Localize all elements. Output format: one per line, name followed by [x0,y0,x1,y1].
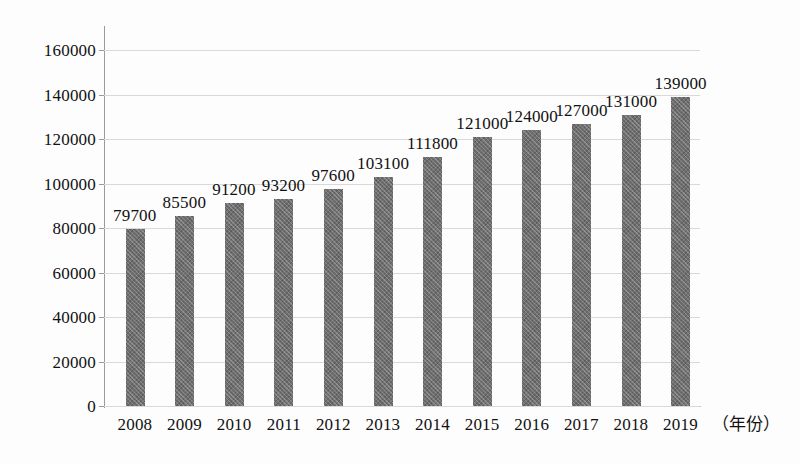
y-axis-tick-label: 40000 [53,309,97,326]
bar-data-label: 97600 [311,167,355,184]
x-axis-tick-label: 2018 [614,416,649,433]
x-axis-tick-label: 2015 [465,416,500,433]
bar-data-label: 91200 [212,181,256,198]
x-axis-tick-label: 2019 [663,416,698,433]
y-axis-tick-label: 120000 [44,131,96,148]
bar-data-label: 85500 [163,194,207,211]
plot-area [104,28,700,406]
bar [374,177,393,406]
y-axis-tick-label: 60000 [53,265,97,282]
bar [572,124,591,406]
y-axis-tick [99,95,104,96]
bar-data-label: 124000 [506,108,558,125]
bar [522,130,541,406]
bar-data-label: 93200 [262,177,306,194]
bar-data-label: 121000 [456,115,508,132]
gridline [104,406,700,407]
y-axis-tick-label: 20000 [53,354,97,371]
x-axis-tick-label: 2013 [366,416,401,433]
bar [274,199,293,406]
gridline [104,139,700,140]
bar [473,137,492,406]
x-axis-tick-label: 2008 [118,416,153,433]
gridline [104,184,700,185]
bar [175,216,194,406]
bar-data-label: 111800 [407,135,458,152]
bar-data-label: 131000 [605,93,657,110]
y-axis-tick [99,139,104,140]
x-axis-tick-label: 2017 [564,416,599,433]
y-axis-tick [99,273,104,274]
x-axis-tick-label: 2012 [316,416,351,433]
y-axis-tick [99,317,104,318]
bar-data-label: 103100 [357,155,409,172]
bar-data-label: 127000 [555,102,607,119]
bar-data-label: 139000 [655,75,707,92]
bar [423,157,442,406]
x-axis-tick-label: 2011 [267,416,301,433]
x-axis-tick-label: 2016 [514,416,549,433]
bar [126,229,145,406]
bar-data-label: 79700 [113,207,157,224]
y-axis-tick-label: 80000 [53,220,97,237]
bar [622,115,641,406]
y-axis-labels: 0200004000060000800001000001200001400001… [0,0,96,464]
y-axis-tick [99,184,104,185]
x-axis-tick-label: 2009 [167,416,202,433]
bar [324,189,343,406]
x-axis-tick-label: 2014 [415,416,450,433]
y-axis-tick [99,406,104,407]
gridline [104,50,700,51]
chart-page: 0200004000060000800001000001200001400001… [0,0,800,464]
x-axis-tick-label: 2010 [217,416,252,433]
y-axis-tick [99,50,104,51]
bar [225,203,244,406]
y-axis-tick [99,362,104,363]
y-axis-tick-label: 100000 [44,176,96,193]
y-axis-tick-label: 160000 [44,42,96,59]
y-axis-tick-label: 0 [87,398,96,415]
x-axis-title: （年份） [712,416,780,433]
y-axis-tick-label: 140000 [44,87,96,104]
bar [671,97,690,406]
y-axis-tick [99,228,104,229]
